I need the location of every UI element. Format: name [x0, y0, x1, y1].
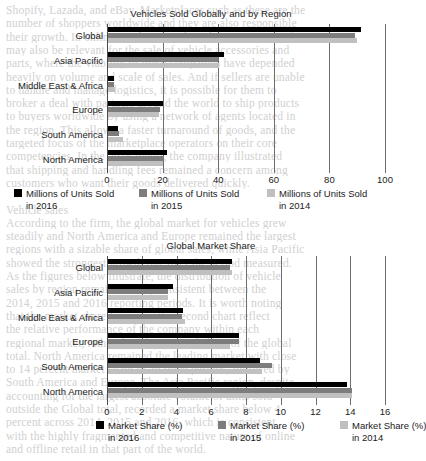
x-axis-ticks-vehicles-sold: 020406080100 — [107, 172, 385, 186]
bar-middle-east-africa-series-2 — [108, 319, 185, 324]
category-label-europe: Europe — [0, 337, 107, 347]
chart-category-row: Global — [107, 24, 385, 49]
gridline — [385, 24, 386, 173]
chart-canvas: GlobalAsia PacificMiddle East & AfricaEu… — [107, 24, 385, 172]
legend-swatch-icon — [139, 189, 147, 197]
bar-europe-series-2 — [108, 344, 230, 349]
legend-label: Market Share (%)in 2016 — [108, 420, 182, 443]
bar-asia-pacific-series-1 — [108, 289, 168, 294]
legend-label-line1: Market Share (%) — [352, 420, 426, 431]
bar-south-america-series-1 — [108, 363, 272, 368]
figure-vehicles-sold: Vehicles Sold Globally and by Region Glo… — [0, 0, 404, 232]
bar-europe-series-0 — [108, 333, 239, 338]
legend-label-line1: Millions of Units Sold — [151, 188, 239, 199]
legend-label-line2: in 2016 — [26, 200, 114, 212]
legend-item-0[interactable]: Market Share (%)in 2016 — [96, 420, 182, 443]
bar-south-america-series-0 — [108, 126, 118, 131]
category-label-middle-east-africa: Middle East & Africa — [0, 81, 107, 91]
bar-middle-east-africa-series-1 — [108, 82, 114, 87]
chart-category-row: Europe — [107, 330, 385, 355]
category-label-europe: Europe — [0, 105, 107, 115]
legend-item-1[interactable]: Market Share (%)in 2015 — [218, 420, 304, 443]
bar-asia-pacific-series-0 — [108, 284, 173, 289]
category-label-north-america: North America — [0, 155, 107, 165]
legend-swatch-icon — [14, 189, 22, 197]
chart-category-row: Asia Pacific — [107, 281, 385, 306]
legend-item-2[interactable]: Market Share (%)in 2014 — [340, 420, 426, 443]
bar-europe-series-1 — [108, 339, 239, 344]
bar-north-america-series-2 — [108, 161, 163, 166]
chart-canvas: GlobalAsia PacificMiddle East & AfricaEu… — [107, 256, 385, 404]
legend-global-market-share: Market Share (%)in 2016Market Share (%)i… — [0, 420, 404, 446]
category-label-north-america: North America — [0, 387, 107, 397]
bar-north-america-series-0 — [108, 382, 347, 387]
x-tick-label: 12 — [310, 406, 321, 418]
x-tick-label: 0 — [104, 174, 109, 186]
x-tick-label: 6 — [209, 406, 214, 418]
legend-label-line1: Millions of Units Sold — [279, 188, 367, 199]
bar-asia-pacific-series-1 — [108, 57, 218, 62]
x-tick-label: 16 — [380, 406, 391, 418]
legend-label-line1: Market Share (%) — [108, 420, 182, 431]
category-label-global: Global — [0, 263, 107, 273]
chart-category-row: Global — [107, 256, 385, 281]
legend-label: Millions of Units Soldin 2015 — [151, 188, 239, 211]
bar-global-series-2 — [108, 38, 357, 43]
plot-area-global-market-share: GlobalAsia PacificMiddle East & AfricaEu… — [0, 256, 404, 404]
legend-label: Millions of Units Soldin 2016 — [26, 188, 114, 211]
legend-item-1[interactable]: Millions of Units Soldin 2015 — [139, 188, 239, 211]
chart-category-row: North America — [107, 379, 385, 404]
legend-label: Market Share (%)in 2015 — [230, 420, 304, 443]
legend-label-line1: Market Share (%) — [230, 420, 304, 431]
bar-global-series-2 — [108, 270, 232, 275]
x-tick-label: 4 — [174, 406, 179, 418]
category-label-middle-east-africa: Middle East & Africa — [0, 313, 107, 323]
bar-global-series-0 — [108, 259, 232, 264]
plot-area-vehicles-sold: GlobalAsia PacificMiddle East & AfricaEu… — [0, 24, 404, 172]
legend-swatch-icon — [267, 189, 275, 197]
legend-label-line2: in 2015 — [230, 432, 304, 444]
bar-global-series-1 — [108, 33, 355, 38]
bar-asia-pacific-series-2 — [108, 295, 168, 300]
x-tick-label: 10 — [275, 406, 286, 418]
chart-category-row: Middle East & Africa — [107, 305, 385, 330]
legend-label-line2: in 2014 — [279, 200, 367, 212]
category-label-south-america: South America — [0, 130, 107, 140]
chart-category-row: Middle East & Africa — [107, 73, 385, 98]
legend-label: Market Share (%)in 2014 — [352, 420, 426, 443]
chart-title-global-market-share: Global Market Share — [0, 232, 404, 251]
chart-category-row: South America — [107, 355, 385, 380]
legend-swatch-icon — [218, 421, 226, 429]
x-tick-label: 2 — [139, 406, 144, 418]
x-tick-label: 40 — [213, 174, 224, 186]
legend-label-line2: in 2014 — [352, 432, 426, 444]
bar-north-america-series-2 — [108, 393, 352, 398]
legend-label-line2: in 2016 — [108, 432, 182, 444]
legend-swatch-icon — [96, 421, 104, 429]
x-tick-label: 0 — [104, 406, 109, 418]
chart-category-row: Europe — [107, 98, 385, 123]
legend-item-0[interactable]: Millions of Units Soldin 2016 — [14, 188, 114, 211]
x-tick-label: 14 — [345, 406, 356, 418]
bar-middle-east-africa-series-0 — [108, 308, 183, 313]
x-axis-ticks-global-market-share: 0246810121416 — [107, 404, 385, 418]
bar-north-america-series-1 — [108, 388, 352, 393]
chart-category-row: Asia Pacific — [107, 49, 385, 74]
bar-middle-east-africa-series-2 — [108, 87, 115, 92]
chart-category-row: South America — [107, 123, 385, 148]
bar-south-america-series-0 — [108, 358, 260, 363]
category-label-asia-pacific: Asia Pacific — [0, 56, 107, 66]
x-tick-label: 20 — [157, 174, 168, 186]
bar-south-america-series-1 — [108, 131, 119, 136]
bar-asia-pacific-series-2 — [108, 63, 219, 68]
bar-global-series-0 — [108, 27, 361, 32]
chart-title-vehicles-sold: Vehicles Sold Globally and by Region — [0, 0, 404, 19]
figure-global-market-share: Global Market Share GlobalAsia PacificMi… — [0, 232, 404, 461]
legend-label-line2: in 2015 — [151, 200, 239, 212]
bar-south-america-series-2 — [108, 369, 262, 374]
legend-item-2[interactable]: Millions of Units Soldin 2014 — [267, 188, 367, 211]
category-label-global: Global — [0, 31, 107, 41]
bar-europe-series-2 — [108, 112, 159, 117]
bar-north-america-series-1 — [108, 156, 164, 161]
bar-middle-east-africa-series-1 — [108, 314, 182, 319]
